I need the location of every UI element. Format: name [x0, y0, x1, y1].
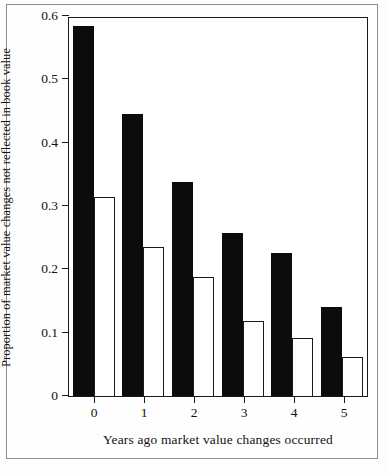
x-tick-mark [244, 396, 245, 403]
y-tick-label: 0 [51, 388, 58, 404]
bar-hollow [143, 247, 164, 396]
plot-frame: 00.10.20.30.40.50.6 012345 [68, 17, 368, 397]
y-tick-label: 0.4 [41, 135, 58, 151]
bar-solid [271, 253, 292, 396]
bar-group [271, 18, 313, 396]
x-tick-label: 2 [191, 405, 198, 421]
y-tick-label: 0.6 [41, 8, 58, 24]
bar-solid [122, 114, 143, 396]
y-axis-title: Proportion of market value changes not r… [0, 17, 16, 397]
bar-group [321, 18, 363, 396]
x-tick-mark [94, 396, 95, 403]
y-tick-mark [62, 78, 69, 79]
y-tick-mark [62, 268, 69, 269]
y-tick-mark [62, 395, 69, 396]
bar-solid [222, 233, 243, 396]
y-tick-mark [62, 332, 69, 333]
bar-group [222, 18, 264, 396]
bar-hollow [243, 321, 264, 396]
x-tick-mark [144, 396, 145, 403]
x-tick-label: 5 [341, 405, 348, 421]
bar-hollow [193, 277, 214, 396]
bar-solid [73, 26, 94, 397]
x-tick-label: 0 [91, 405, 98, 421]
bar-groups [69, 18, 367, 396]
x-tick-label: 3 [241, 405, 248, 421]
bar-solid [172, 182, 193, 396]
figure-container: Proportion of market value changes not r… [0, 0, 387, 473]
x-tick-mark [294, 396, 295, 403]
y-tick-mark [62, 142, 69, 143]
bar-group [122, 18, 164, 396]
y-tick-label: 0.2 [41, 261, 58, 277]
bar-group [73, 18, 115, 396]
y-tick-mark [62, 15, 69, 16]
x-tick-mark [194, 396, 195, 403]
x-axis-title: Years ago market value changes occurred [68, 432, 368, 448]
bar-solid [321, 307, 342, 396]
bar-hollow [94, 197, 115, 397]
y-tick-label: 0.1 [41, 325, 58, 341]
bar-hollow [292, 338, 313, 396]
plot-area: 00.10.20.30.40.50.6 012345 [69, 18, 367, 396]
y-tick-label: 0.3 [41, 198, 58, 214]
x-tick-label: 1 [141, 405, 148, 421]
bar-hollow [342, 357, 363, 396]
x-tick-label: 4 [291, 405, 298, 421]
x-tick-mark [344, 396, 345, 403]
y-tick-label: 0.5 [41, 71, 58, 87]
bar-group [172, 18, 214, 396]
y-tick-mark [62, 205, 69, 206]
y-axis-title-text: Proportion of market value changes not r… [0, 48, 14, 367]
